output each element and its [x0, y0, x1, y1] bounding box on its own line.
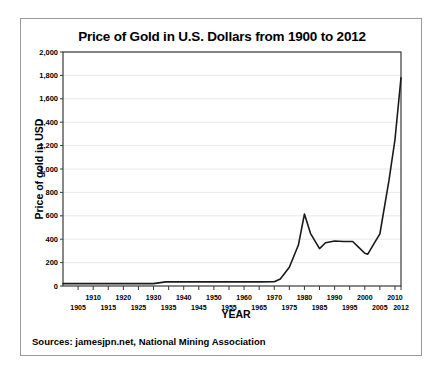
x-tick-label-upper: 2010 — [387, 294, 403, 301]
x-axis-title: YEAR — [221, 308, 251, 320]
y-axis-title: Price of gold in USD — [33, 118, 45, 219]
x-tick-label-lower: 1995 — [342, 304, 358, 311]
y-tick-label: 1,600 — [39, 94, 58, 103]
x-tick-label-upper: 1980 — [297, 294, 313, 301]
x-tick-label-lower: 1985 — [312, 304, 328, 311]
x-tick-label-lower: 1925 — [131, 304, 147, 311]
y-tick-label: 1,800 — [39, 71, 58, 80]
x-tick-label-upper: 1960 — [236, 294, 252, 301]
gridlines — [63, 52, 401, 263]
x-tick-label-lower: 1915 — [100, 304, 116, 311]
x-tick-label-lower: 1975 — [282, 304, 298, 311]
x-tick-label-lower: 2005 — [372, 304, 388, 311]
x-tick-label-upper: 2000 — [357, 294, 373, 301]
axis-ticks — [60, 52, 401, 290]
y-tick-label: 400 — [45, 235, 58, 244]
chart-figure: Price of Gold in U.S. Dollars from 1900 … — [20, 18, 422, 356]
x-tick-label-lower: 2012 — [393, 304, 409, 311]
x-tick-label-lower: 1905 — [70, 304, 86, 311]
y-tick-label: 600 — [45, 211, 58, 220]
x-tick-label-lower: 1965 — [251, 304, 267, 311]
gold-price-line — [63, 78, 401, 284]
x-tick-label-upper: 1940 — [176, 294, 192, 301]
y-tick-label: 800 — [45, 188, 58, 197]
x-tick-label-upper: 1910 — [85, 294, 101, 301]
y-tick-label: 0 — [54, 282, 58, 291]
x-tick-label-lower: 1935 — [161, 304, 177, 311]
y-tick-label: 2,000 — [39, 48, 58, 57]
plot-area: 02004006008001,0001,2001,4001,6001,8002,… — [21, 19, 423, 357]
x-tick-label-upper: 1930 — [146, 294, 162, 301]
x-tick-label-upper: 1920 — [116, 294, 132, 301]
x-tick-label-upper: 1990 — [327, 294, 343, 301]
line-chart-svg: 02004006008001,0001,2001,4001,6001,8002,… — [21, 19, 423, 357]
x-tick-label-upper: 1950 — [206, 294, 222, 301]
x-tick-label-lower: 1945 — [191, 304, 207, 311]
x-axis-tick-labels-upper: 1910192019301940195019601970198019902000… — [85, 294, 402, 301]
x-tick-label-upper: 1970 — [266, 294, 282, 301]
y-tick-label: 200 — [45, 258, 58, 267]
sources-note: Sources: jamesjpn.net, National Mining A… — [32, 336, 266, 347]
